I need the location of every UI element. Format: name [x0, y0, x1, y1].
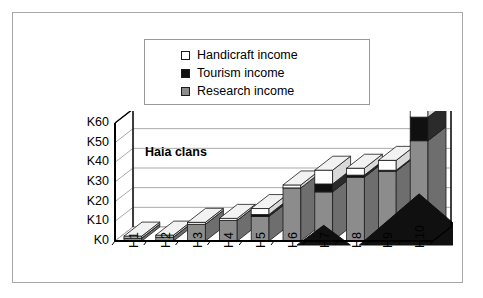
x-axis-tick-label: H1 — [128, 232, 140, 248]
plot-title: Haia clans — [145, 145, 207, 159]
legend-label-research: Research income — [197, 85, 294, 98]
legend-label-handicraft: Handicraft income — [197, 49, 298, 62]
y-axis-tick-label: K40 — [67, 155, 109, 167]
white-square-icon — [181, 51, 190, 60]
x-axis-tick-label: H6 — [287, 232, 299, 248]
legend-label-tourism: Tourism income — [197, 67, 285, 80]
x-axis-tick-label: H3 — [192, 232, 204, 248]
x-axis-tick-label: H8 — [351, 232, 363, 248]
y-axis-tick-label: K10 — [67, 214, 109, 226]
y-axis-tick-label: K20 — [67, 195, 109, 207]
legend-item-tourism: Tourism income — [181, 64, 369, 82]
legend-item-research: Research income — [181, 82, 369, 100]
y-axis-tick-label: K0 — [67, 234, 109, 246]
x-axis-tick-label: H5 — [255, 232, 267, 248]
x-axis-tick-label: H4 — [223, 232, 235, 248]
chart-legend: Handicraft income Tourism income Researc… — [144, 39, 370, 105]
legend-item-handicraft: Handicraft income — [181, 46, 369, 64]
page-border: Handicraft income Tourism income Researc… — [12, 12, 463, 283]
y-axis-tick-label: K50 — [67, 136, 109, 148]
y-axis-tick-label: K30 — [67, 175, 109, 187]
x-axis-tick-label: H2 — [160, 232, 172, 248]
black-square-icon — [181, 69, 190, 78]
x-axis-tick-label: H9 — [382, 232, 394, 248]
x-axis-tick-label: H7 — [319, 232, 331, 248]
y-axis-tick-label: K60 — [67, 116, 109, 128]
gray-square-icon — [181, 87, 190, 96]
x-axis-tick-label: H10 — [414, 225, 426, 248]
